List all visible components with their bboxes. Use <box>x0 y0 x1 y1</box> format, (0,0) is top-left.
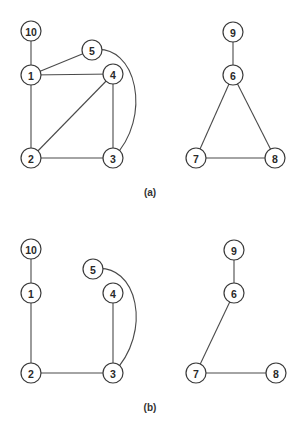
graph-node-10: 10 <box>21 239 41 259</box>
edge-1-4 <box>31 74 113 75</box>
graph-node-2: 2 <box>21 363 41 383</box>
panel-a-caption: (a) <box>144 187 156 198</box>
graph-node-5: 5 <box>82 40 102 60</box>
graph-node-6: 6 <box>224 283 244 303</box>
edge-6-7 <box>196 293 234 373</box>
panel-a-edges <box>31 31 275 158</box>
node-label: 7 <box>193 153 199 165</box>
panel-b-edges <box>31 249 276 373</box>
graph-node-7: 7 <box>186 363 206 383</box>
node-label: 3 <box>110 153 116 165</box>
edge-2-4 <box>31 74 113 158</box>
panel-b-caption: (b) <box>144 402 157 413</box>
panel-a: 10154239678 (a) <box>21 21 285 198</box>
node-label: 8 <box>272 153 278 165</box>
edge-6-7 <box>196 75 233 158</box>
node-label: 5 <box>90 264 96 276</box>
graph-node-3: 3 <box>103 148 123 168</box>
node-label: 6 <box>230 70 236 82</box>
graph-node-9: 9 <box>224 240 244 260</box>
graph-node-7: 7 <box>186 148 206 168</box>
node-label: 3 <box>110 368 116 380</box>
node-label: 10 <box>25 244 37 256</box>
graph-figure: 10154239678 (a) 10154239678 (b) <box>0 0 302 434</box>
edge-6-8 <box>233 75 275 158</box>
node-label: 4 <box>110 288 116 300</box>
graph-node-10: 10 <box>21 21 41 41</box>
node-label: 4 <box>110 69 116 81</box>
graph-node-3: 3 <box>103 363 123 383</box>
node-label: 9 <box>231 245 237 257</box>
panel-b: 10154239678 (b) <box>21 239 286 413</box>
node-label: 1 <box>28 288 34 300</box>
node-label: 2 <box>28 368 34 380</box>
graph-node-4: 4 <box>103 283 123 303</box>
graph-node-4: 4 <box>103 64 123 84</box>
graph-node-6: 6 <box>223 65 243 85</box>
panel-a-nodes: 10154239678 <box>21 21 285 168</box>
graph-node-8: 8 <box>265 148 285 168</box>
graph-node-8: 8 <box>266 363 286 383</box>
node-label: 2 <box>28 153 34 165</box>
node-label: 7 <box>193 368 199 380</box>
node-label: 9 <box>230 27 236 39</box>
panel-b-nodes: 10154239678 <box>21 239 286 383</box>
node-label: 5 <box>89 45 95 57</box>
graph-node-1: 1 <box>21 283 41 303</box>
graph-node-2: 2 <box>21 148 41 168</box>
node-label: 6 <box>231 288 237 300</box>
node-label: 8 <box>273 368 279 380</box>
node-label: 1 <box>28 70 34 82</box>
graph-node-1: 1 <box>21 65 41 85</box>
graph-node-9: 9 <box>223 22 243 42</box>
node-label: 10 <box>25 26 37 38</box>
graph-node-5: 5 <box>83 259 103 279</box>
